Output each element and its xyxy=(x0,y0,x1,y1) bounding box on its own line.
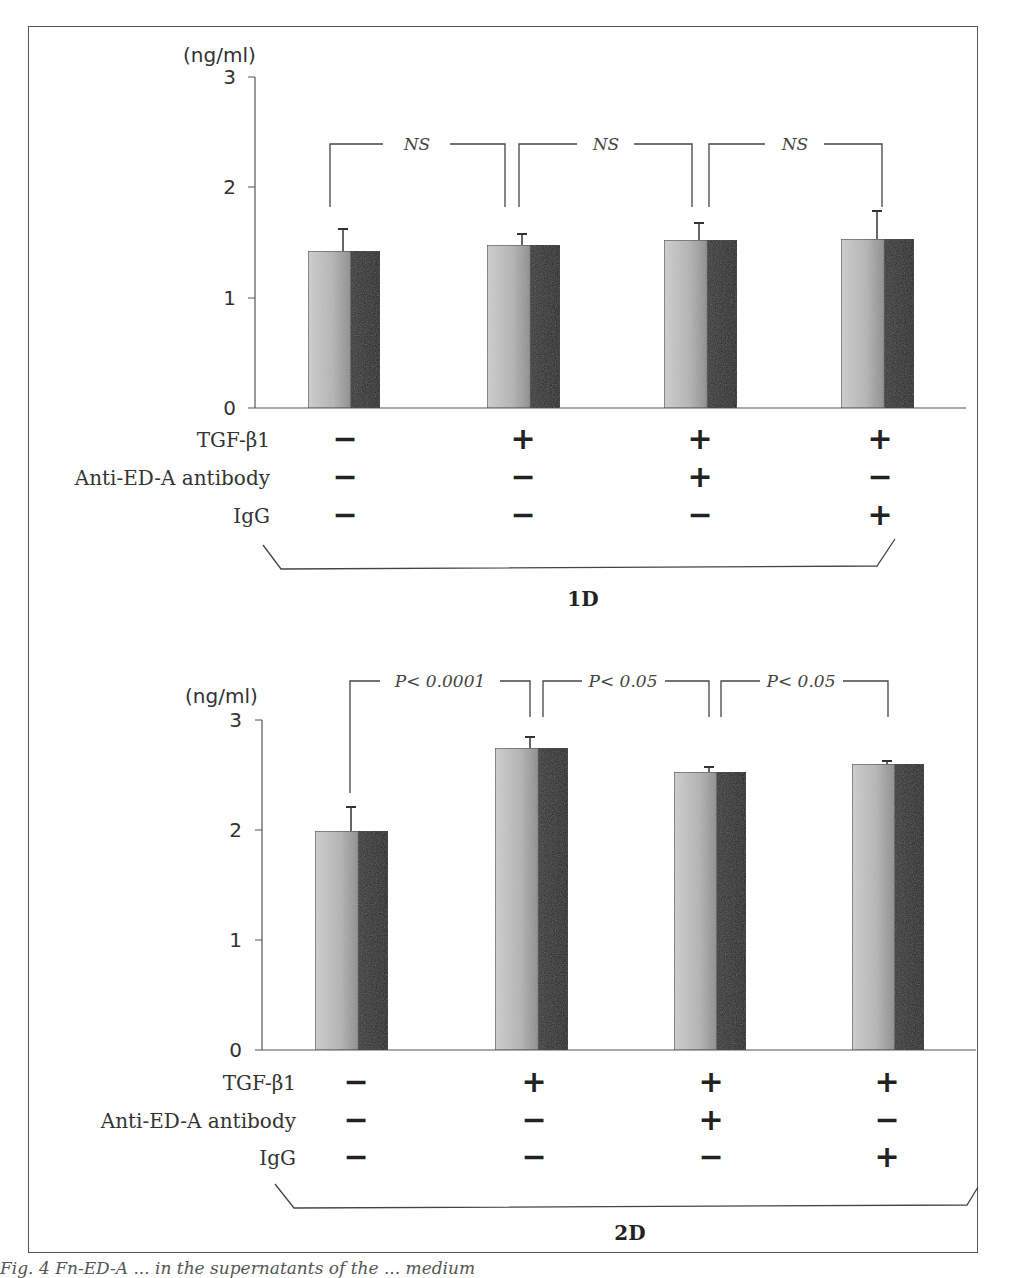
sign: − xyxy=(332,421,357,456)
sign: − xyxy=(698,1139,723,1174)
sign: − xyxy=(687,497,712,532)
sign: + xyxy=(698,1064,723,1099)
sign: + xyxy=(687,421,712,456)
y-tick-label: 1 xyxy=(229,928,242,952)
bar-group xyxy=(315,737,924,1050)
sign: − xyxy=(343,1102,368,1137)
group-brace xyxy=(263,539,895,569)
sign: − xyxy=(510,497,535,532)
y-tick-label: 2 xyxy=(229,818,242,842)
sign: + xyxy=(867,497,892,532)
row-label-tgf: TGF-β1 xyxy=(223,1071,296,1095)
y-tick-label: 1 xyxy=(223,286,236,310)
sign: − xyxy=(332,459,357,494)
bar xyxy=(664,240,737,408)
sign: + xyxy=(874,1139,899,1174)
group-brace xyxy=(275,1184,978,1208)
sign: + xyxy=(687,459,712,494)
significance-brackets xyxy=(350,681,888,793)
sign: + xyxy=(874,1064,899,1099)
sign: − xyxy=(867,459,892,494)
panel-1d: (ng/ml) 0 1 2 3 xyxy=(74,43,966,611)
sign: − xyxy=(343,1139,368,1174)
sign: − xyxy=(332,497,357,532)
bar xyxy=(308,251,380,408)
significance-label: NS xyxy=(403,134,431,154)
row-label-igg: IgG xyxy=(233,504,270,528)
row-label-anti-ed-a: Anti-ED-A antibody xyxy=(100,1109,297,1133)
sign: − xyxy=(521,1102,546,1137)
y-tick-label: 0 xyxy=(229,1038,242,1062)
sign: + xyxy=(510,421,535,456)
bar xyxy=(674,772,746,1050)
y-unit-label: (ng/ml) xyxy=(183,43,256,67)
sign: + xyxy=(867,421,892,456)
sign: − xyxy=(521,1139,546,1174)
significance-label: P< 0.05 xyxy=(766,671,836,691)
row-label-tgf: TGF-β1 xyxy=(197,428,270,452)
y-tick-label: 3 xyxy=(223,65,236,89)
panel-2d: (ng/ml) 0 1 2 3 xyxy=(100,671,978,1245)
y-tick-label: 0 xyxy=(223,396,236,420)
sign: + xyxy=(698,1102,723,1137)
bar xyxy=(495,748,568,1050)
sign: − xyxy=(874,1102,899,1137)
bar xyxy=(315,831,388,1050)
sign: + xyxy=(521,1064,546,1099)
significance-label: NS xyxy=(592,134,620,154)
sign: − xyxy=(343,1064,368,1099)
sign: − xyxy=(510,459,535,494)
bar-group xyxy=(308,211,914,408)
significance-label: NS xyxy=(781,134,809,154)
significance-label: P< 0.0001 xyxy=(394,671,486,691)
y-tick-label: 2 xyxy=(223,175,236,199)
panel-label: 1D xyxy=(567,587,598,611)
row-label-anti-ed-a: Anti-ED-A antibody xyxy=(74,466,271,490)
row-label-igg: IgG xyxy=(259,1146,296,1170)
significance-label: P< 0.05 xyxy=(588,671,658,691)
y-tick-label: 3 xyxy=(229,708,242,732)
bar xyxy=(852,764,924,1050)
bar xyxy=(487,245,560,408)
y-unit-label: (ng/ml) xyxy=(185,684,258,708)
bar xyxy=(841,239,914,408)
panel-label: 2D xyxy=(614,1221,645,1245)
figure-caption: Fig. 4 Fn-ED-A ... in the supernatants o… xyxy=(0,1258,475,1278)
